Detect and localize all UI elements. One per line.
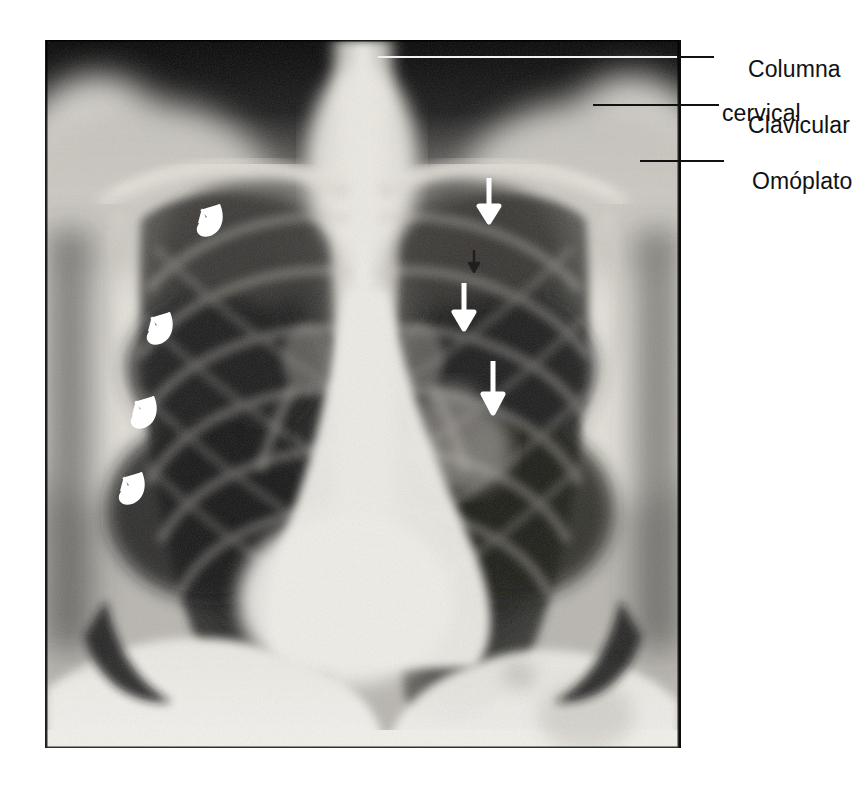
label-columna-cervical-line1: Columna — [748, 56, 841, 82]
chest-xray-figure: Columna cervical Clavicular Omóplato — [0, 0, 863, 796]
leader-line-columna-cervical-outer — [677, 56, 714, 58]
label-clavicular-line1: Clavicular — [748, 112, 850, 138]
leader-line-columna-cervical-inner — [378, 56, 677, 58]
leader-line-clavicular — [593, 104, 719, 106]
leader-line-omoplato — [640, 160, 724, 162]
radiograph-plate — [45, 40, 681, 748]
label-omoplato: Omóplato — [726, 148, 852, 214]
label-omoplato-line1: Omóplato — [752, 168, 853, 194]
radiograph-image — [46, 40, 679, 748]
